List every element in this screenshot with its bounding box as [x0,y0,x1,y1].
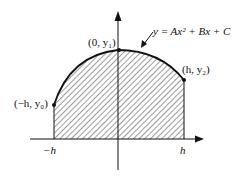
point-top [117,48,121,52]
point-right-label: (h, y₂) [182,64,210,75]
curve-equation-label: y = Ax² + Bx + C [153,26,230,37]
point-right [182,78,186,82]
point-top-label: (0, y₁) [88,37,116,48]
point-left [52,103,56,107]
x-tick-neg-h: −h [43,145,56,156]
y-axis-arrow-icon [115,11,122,21]
point-left-label: (−h, y₀) [14,98,48,109]
x-axis-arrow-icon [195,136,204,143]
equation-pointer [144,32,153,44]
x-tick-h: h [180,145,186,156]
